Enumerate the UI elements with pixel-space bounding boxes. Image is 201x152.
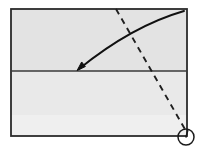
origami-diagram-root: Paper fold step diagram Rectangular shee… xyxy=(0,0,201,152)
paper-lower-tone-band xyxy=(11,115,187,136)
diagram-canvas xyxy=(0,0,201,152)
